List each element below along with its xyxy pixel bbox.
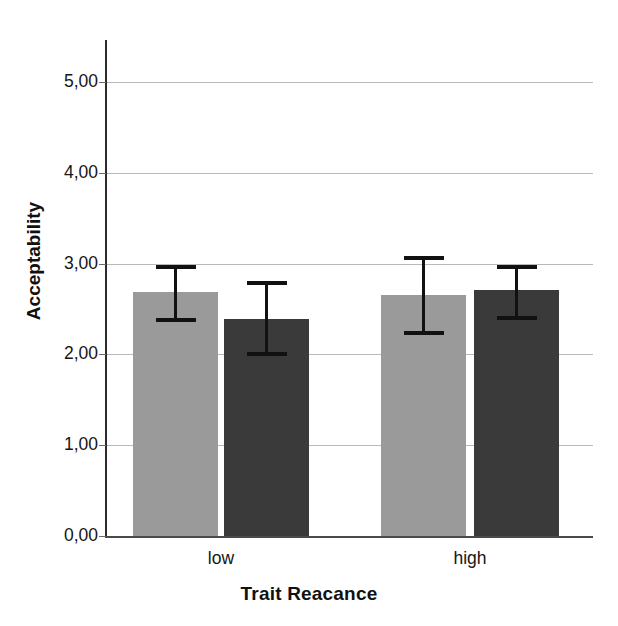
plot-area — [105, 40, 593, 538]
error-bar-low-light — [133, 265, 218, 322]
y-tick-mark — [99, 354, 106, 355]
error-bar-stem — [174, 265, 177, 322]
gridline-5,00 — [107, 82, 593, 83]
bar-chart: Acceptability 0,001,002,003,004,005,00 l… — [0, 0, 618, 626]
bar-high-dark — [474, 290, 559, 536]
error-bar-cap-lower — [156, 318, 196, 322]
error-bar-stem — [515, 265, 518, 320]
x-axis-title: Trait Reacance — [0, 583, 618, 605]
error-bar-cap-lower — [247, 352, 287, 356]
error-bar-high-dark — [474, 265, 559, 320]
y-tick-label: 4,00 — [36, 164, 98, 182]
y-axis-line — [105, 40, 107, 538]
error-bar-stem — [422, 256, 425, 335]
error-bar-cap-upper — [404, 256, 444, 260]
y-tick-label: 0,00 — [36, 527, 98, 545]
error-bar-cap-lower — [497, 316, 537, 320]
error-bar-low-dark — [224, 281, 309, 356]
error-bar-cap-upper — [156, 265, 196, 269]
bar-low-light — [133, 292, 218, 536]
y-tick-mark — [99, 173, 106, 174]
y-tick-label: 3,00 — [36, 255, 98, 273]
error-bar-cap-upper — [247, 281, 287, 285]
gridline-4,00 — [107, 173, 593, 174]
y-tick-label: 5,00 — [36, 73, 98, 91]
y-axis-tick-labels: 0,001,002,003,004,005,00 — [28, 0, 98, 626]
y-tick-mark — [99, 82, 106, 83]
x-tick-label-high: high — [400, 548, 540, 569]
x-axis-line — [105, 536, 593, 538]
y-tick-mark — [99, 445, 106, 446]
y-tick-mark — [99, 536, 106, 537]
y-tick-mark — [99, 264, 106, 265]
error-bar-cap-upper — [497, 265, 537, 269]
error-bar-stem — [265, 281, 268, 356]
error-bar-high-light — [381, 256, 466, 335]
x-tick-label-low: low — [151, 548, 291, 569]
error-bar-cap-lower — [404, 331, 444, 335]
y-tick-label: 2,00 — [36, 345, 98, 363]
y-tick-label: 1,00 — [36, 436, 98, 454]
